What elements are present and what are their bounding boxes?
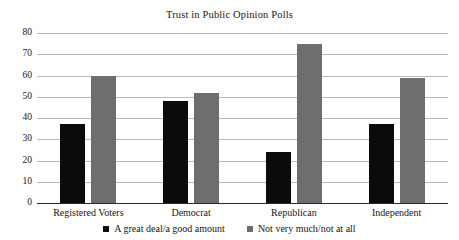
chart-legend: A great deal/a good amountNot very much/…	[0, 224, 459, 234]
legend-swatch-icon	[103, 226, 109, 232]
bar-group	[243, 33, 346, 203]
axis-baseline	[37, 203, 448, 204]
y-tick-label: 70	[23, 50, 33, 60]
legend-item[interactable]: Not very much/not at all	[247, 224, 356, 234]
x-tick-label: Republican	[271, 206, 317, 219]
bar	[297, 44, 322, 203]
legend-label: A great deal/a good amount	[114, 224, 225, 234]
x-tick-label: Independent	[372, 206, 421, 219]
y-tick-label: 40	[23, 113, 33, 123]
chart-title: Trust in Public Opinion Polls	[0, 9, 459, 20]
bar	[194, 93, 219, 204]
x-tick-label: Democrat	[171, 206, 210, 219]
y-tick-label: 30	[23, 135, 33, 145]
bar	[400, 78, 425, 203]
bar-chart: Trust in Public Opinion Polls 0102030405…	[0, 0, 459, 240]
bar	[60, 124, 85, 203]
y-tick-label: 0	[27, 198, 32, 208]
y-tick-label: 50	[23, 92, 33, 102]
y-tick-label: 10	[23, 177, 33, 187]
bar-group	[140, 33, 243, 203]
legend-label: Not very much/not at all	[258, 224, 356, 234]
bars-layer	[37, 33, 448, 203]
bar	[369, 124, 394, 203]
bar-group	[345, 33, 448, 203]
legend-swatch-icon	[247, 226, 253, 232]
bar	[266, 152, 291, 203]
x-tick-label: Registered Voters	[53, 206, 123, 219]
bar	[91, 76, 116, 204]
y-axis: 01020304050607080	[0, 33, 32, 203]
bar-group	[37, 33, 140, 203]
y-tick-label: 60	[23, 71, 33, 81]
x-axis: Registered VotersDemocratRepublicanIndep…	[37, 206, 448, 222]
y-tick-label: 20	[23, 156, 33, 166]
legend-item[interactable]: A great deal/a good amount	[103, 224, 225, 234]
y-tick-label: 80	[23, 28, 33, 38]
bar	[163, 101, 188, 203]
